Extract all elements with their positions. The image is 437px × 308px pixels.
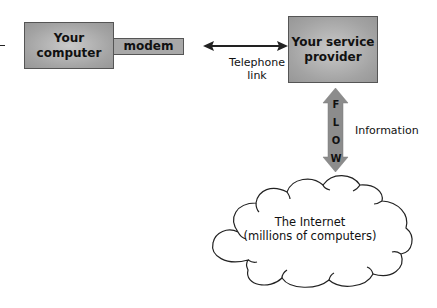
network-diagram: Your computer modem Your service provide… [0, 0, 437, 308]
information-label: Information [355, 124, 435, 137]
flow-letter-f: F [329, 99, 343, 110]
flow-letter-l: L [329, 117, 343, 128]
internet-label: The Internet (millions of computers) [230, 215, 390, 243]
telephone-link-arrow-icon [203, 41, 288, 51]
telephone-link-label: Telephone link [222, 56, 292, 82]
internet-label-line1: The Internet [230, 215, 390, 229]
flow-letter-w: W [329, 153, 343, 164]
telephone-label-line1: Telephone [222, 56, 292, 69]
flow-letter-o: O [329, 135, 343, 146]
telephone-label-line2: link [222, 69, 292, 82]
internet-label-line2: (millions of computers) [230, 229, 390, 243]
diagram-graphics [0, 0, 437, 308]
